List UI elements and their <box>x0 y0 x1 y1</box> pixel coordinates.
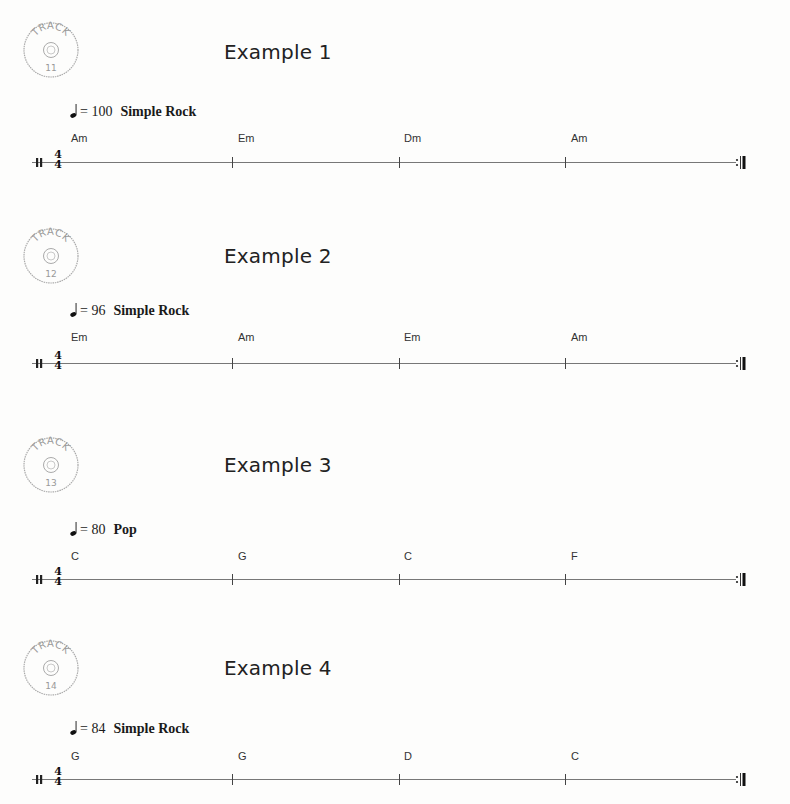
tempo-bpm: 84 <box>91 721 105 736</box>
chord-symbol: C <box>571 750 579 762</box>
example-title: Example 4 <box>224 656 332 680</box>
quarter-note-icon <box>70 303 79 317</box>
quarter-note-icon <box>70 721 79 735</box>
chord-symbol: G <box>238 750 247 762</box>
chord-symbol: Em <box>71 331 88 343</box>
barline <box>232 774 233 785</box>
staff-line <box>32 779 736 780</box>
chord-symbol: C <box>71 550 79 562</box>
staff-line <box>32 363 736 364</box>
chord-symbol: D <box>404 750 412 762</box>
barline <box>565 358 566 369</box>
end-repeat-barline-icon <box>734 772 748 787</box>
track-cd-icon: TRACK 13 <box>22 436 80 494</box>
chord-symbol: G <box>238 550 247 562</box>
time-signature: 44 <box>53 767 63 787</box>
svg-text:14: 14 <box>45 681 57 691</box>
staff-line <box>32 579 736 580</box>
svg-text:12: 12 <box>45 269 56 279</box>
chord-symbol: G <box>71 750 80 762</box>
rhythm-staff: 44 <box>32 768 748 792</box>
end-repeat-barline-icon <box>734 356 748 371</box>
double-barline-icon <box>36 575 43 584</box>
track-cd-icon: TRACK 14 <box>22 639 80 697</box>
rhythm-staff: 44 <box>32 568 748 592</box>
svg-text:TRACK: TRACK <box>29 227 73 245</box>
barline <box>399 358 400 369</box>
tempo-equals: = <box>80 721 88 736</box>
barline <box>399 574 400 585</box>
example-section: TRACK 14 Example 4 = 84Simple Rock G G D… <box>0 0 790 200</box>
tempo-marking: = 80Pop <box>70 522 137 538</box>
barline <box>232 574 233 585</box>
time-signature: 44 <box>53 351 63 371</box>
tempo-style: Pop <box>113 522 136 537</box>
time-signature: 44 <box>53 567 63 587</box>
double-barline-icon <box>36 359 43 368</box>
tempo-style: Simple Rock <box>113 303 189 318</box>
svg-text:TRACK: TRACK <box>29 639 73 657</box>
double-barline-icon <box>36 775 43 784</box>
tempo-bpm: 96 <box>91 303 105 318</box>
tempo-style: Simple Rock <box>113 721 189 736</box>
example-title: Example 3 <box>224 453 332 477</box>
tempo-equals: = <box>80 303 88 318</box>
barline <box>232 358 233 369</box>
chord-symbol: Am <box>571 331 588 343</box>
barline <box>399 774 400 785</box>
track-cd-icon: TRACK 12 <box>22 227 80 285</box>
chord-symbol: Am <box>238 331 255 343</box>
tempo-marking: = 96Simple Rock <box>70 303 189 319</box>
chord-symbol: C <box>404 550 412 562</box>
barline <box>565 574 566 585</box>
svg-text:13: 13 <box>45 478 56 488</box>
chord-symbol: Em <box>404 331 421 343</box>
svg-text:TRACK: TRACK <box>29 436 73 454</box>
example-title: Example 2 <box>224 244 332 268</box>
tempo-bpm: 80 <box>91 522 105 537</box>
tempo-marking: = 84Simple Rock <box>70 721 189 737</box>
end-repeat-barline-icon <box>734 572 748 587</box>
quarter-note-icon <box>70 522 79 536</box>
chord-symbol: F <box>571 550 578 562</box>
rhythm-staff: 44 <box>32 352 748 376</box>
tempo-equals: = <box>80 522 88 537</box>
barline <box>565 774 566 785</box>
